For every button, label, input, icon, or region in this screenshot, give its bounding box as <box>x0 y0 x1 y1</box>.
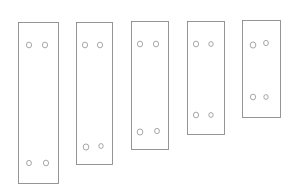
plate-outline <box>19 23 59 184</box>
hole-icon <box>250 94 255 100</box>
hole-icon <box>264 95 268 100</box>
plate-1 <box>19 23 59 184</box>
plate-outline <box>77 23 113 165</box>
plates-sketch <box>0 0 296 184</box>
plate-outline <box>188 22 225 135</box>
hole-icon <box>264 40 269 45</box>
hole-icon <box>26 42 31 48</box>
hole-icon <box>209 42 213 47</box>
hole-icon <box>83 144 89 150</box>
hole-icon <box>97 42 102 48</box>
plate-outline <box>132 22 169 150</box>
plate-2 <box>77 23 113 165</box>
plate-outline <box>243 21 281 118</box>
hole-icon <box>193 112 198 118</box>
plate-5 <box>243 21 281 118</box>
hole-icon <box>155 128 160 133</box>
hole-icon <box>137 129 143 135</box>
plate-4 <box>188 22 225 135</box>
plate-3 <box>132 22 169 150</box>
hole-icon <box>137 41 142 47</box>
hole-icon <box>27 160 32 165</box>
hole-icon <box>42 42 47 48</box>
hole-icon <box>209 113 213 118</box>
hole-icon <box>153 41 158 47</box>
hole-icon <box>82 42 87 48</box>
hole-icon <box>250 42 256 48</box>
hole-icon <box>99 144 103 149</box>
hole-icon <box>193 41 198 47</box>
hole-icon <box>43 160 48 166</box>
